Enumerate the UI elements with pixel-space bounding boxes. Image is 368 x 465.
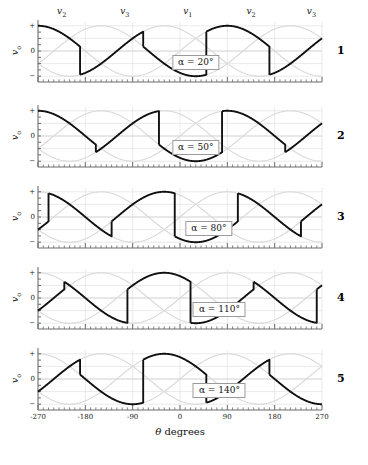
y-axis-label-symbol: v: [10, 378, 20, 383]
phase-label-4: v3: [307, 6, 316, 19]
firing-angle-annotation-5: α = 140°: [193, 383, 246, 398]
x-tick-label: 180: [268, 413, 281, 421]
y-axis-label-5: vo: [10, 374, 23, 383]
x-tick-label: -90: [127, 413, 138, 421]
phase-label-1: v3: [120, 6, 129, 19]
x-axis-title-unit: degrees: [164, 426, 204, 437]
x-axis-title: θ degrees: [155, 426, 205, 437]
panel-canvas-5: [0, 0, 368, 465]
phase-label-0: v2: [57, 6, 66, 19]
x-tick-label: -270: [30, 413, 46, 421]
phase-label-subscript: 1: [188, 11, 192, 19]
x-tick-label: 0: [178, 413, 182, 421]
panel-number-5: 5: [337, 372, 345, 385]
y-tick-label: −: [29, 400, 35, 408]
y-tick-label: 0: [31, 375, 35, 383]
x-tick-label: 90: [223, 413, 232, 421]
x-axis-title-symbol: θ: [155, 426, 161, 437]
x-tick-label: -180: [77, 413, 93, 421]
phase-label-subscript: 3: [125, 11, 129, 19]
figure-root: vo+0−α = 20°1vo+0−α = 50°2vo+0−α = 80°3v…: [0, 0, 368, 465]
phase-label-3: v2: [246, 6, 255, 19]
y-axis-label-subscript: o: [15, 374, 23, 378]
phase-label-subscript: 3: [312, 11, 316, 19]
x-axis-ticks: [38, 405, 322, 410]
x-tick-label: 270: [315, 413, 328, 421]
phase-label-subscript: 2: [62, 11, 66, 19]
phase-label-2: v1: [183, 6, 192, 19]
phase-label-subscript: 2: [251, 11, 255, 19]
y-tick-label: +: [29, 350, 35, 358]
